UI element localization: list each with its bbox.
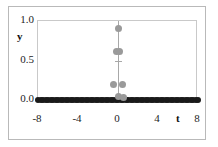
impulse-point	[115, 25, 122, 32]
x-axis-title: t	[176, 113, 180, 124]
y-tick-label: 1.0	[6, 14, 34, 25]
x-tick-label: 4	[145, 113, 169, 124]
baseline-point	[195, 97, 201, 103]
x-tick-label: 8	[185, 113, 209, 124]
impulse-point	[110, 81, 117, 88]
x-tick-label: 0	[105, 113, 129, 124]
x-tick-label: -8	[25, 113, 49, 124]
impulse-point	[116, 48, 123, 55]
plot-area	[37, 20, 197, 99]
y-axis-title: y	[17, 31, 23, 42]
chart-figure: 0.00.51.0 y -8-4048 t	[0, 0, 218, 147]
y-tick-label: 0.5	[6, 54, 34, 65]
data-points-layer	[38, 21, 196, 98]
y-tick-label: 0.0	[6, 93, 34, 104]
impulse-point	[119, 81, 126, 88]
x-tick-label: -4	[65, 113, 89, 124]
